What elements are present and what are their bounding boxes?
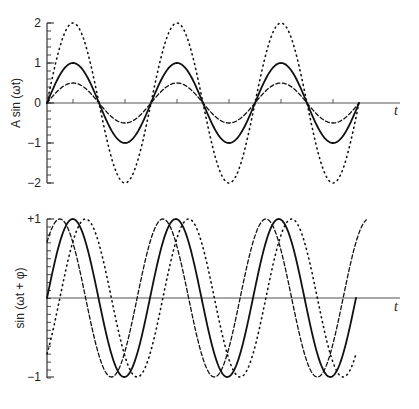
y-tick-label: −2 <box>27 176 41 190</box>
x-axis-label: t <box>394 103 399 118</box>
y-tick-label: 2 <box>34 16 41 30</box>
y-tick-label: +1 <box>27 212 41 226</box>
y-tick-label: −1 <box>27 370 41 384</box>
chart-phase: sin (ωt + φ) t +1−1 <box>13 212 400 384</box>
y-tick-label: 0 <box>34 96 41 110</box>
y-axis-label: A sin (ωt) <box>9 78 23 128</box>
y-axis-label: sin (ωt + φ) <box>13 268 27 329</box>
figure: A sin (ωt) t 210−1−2 sin (ωt + φ) t +1−1 <box>0 0 419 409</box>
y-tick-label: 1 <box>34 56 41 70</box>
chart-amplitude: A sin (ωt) t 210−1−2 <box>9 16 400 190</box>
x-axis-label: t <box>394 299 399 314</box>
y-tick-label: −1 <box>27 136 41 150</box>
